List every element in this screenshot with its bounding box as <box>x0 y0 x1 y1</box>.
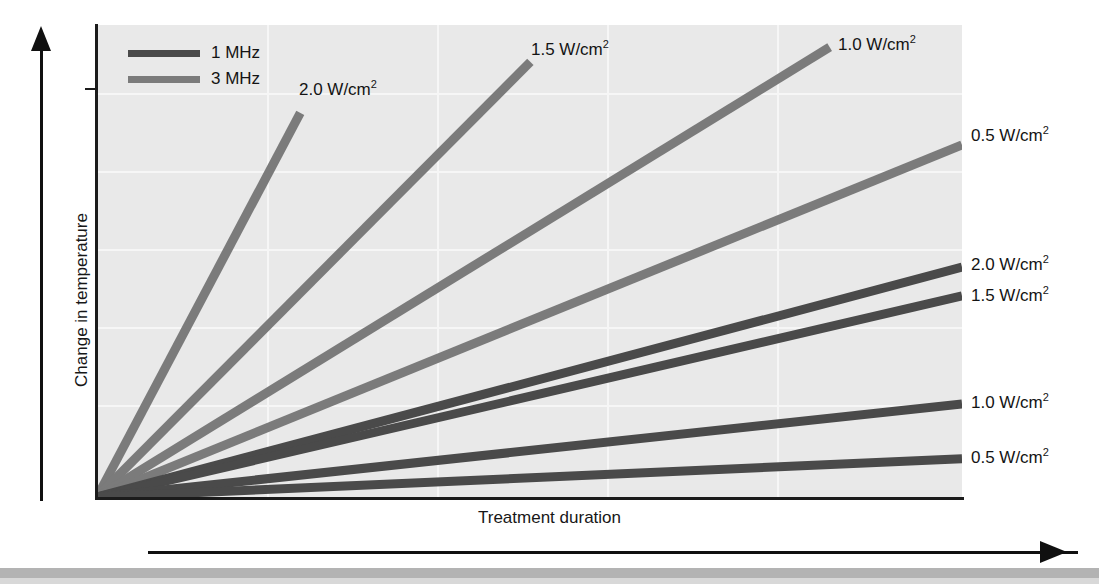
legend: 1 MHz 3 MHz <box>128 40 260 92</box>
legend-item-1mhz: 1 MHz <box>128 40 260 66</box>
legend-label: 1 MHz <box>211 43 260 63</box>
x-axis-line <box>95 497 964 500</box>
x-direction-arrow-icon <box>1040 541 1067 563</box>
line-3mhz-0_5 <box>97 145 962 497</box>
curve-label-3mhz-2_0: 2.0 W/cm2 <box>299 78 377 100</box>
y-axis-line <box>95 24 98 500</box>
legend-item-3mhz: 3 MHz <box>128 66 260 92</box>
curve-label-3mhz-1_5: 1.5 W/cm2 <box>531 38 609 60</box>
curve-label-1mhz-1_5: 1.5 W/cm2 <box>971 284 1049 306</box>
x-direction-arrow-shaft <box>148 551 1078 554</box>
legend-label: 3 MHz <box>211 69 260 89</box>
y-axis-tick <box>85 88 97 90</box>
y-direction-arrow-icon <box>31 26 51 51</box>
curve-label-1mhz-1_0: 1.0 W/cm2 <box>971 391 1049 413</box>
y-axis-title: Change in temperature <box>72 180 92 420</box>
line-3mhz-1_5 <box>97 62 530 497</box>
curve-label-1mhz-2_0: 2.0 W/cm2 <box>971 253 1049 275</box>
legend-swatch-icon <box>128 76 200 83</box>
curve-label-3mhz-0_5: 0.5 W/cm2 <box>971 124 1049 146</box>
plot-area <box>97 25 962 497</box>
curve-label-3mhz-1_0: 1.0 W/cm2 <box>838 33 916 55</box>
data-lines <box>97 25 962 497</box>
figure-container: Change in temperature Treatment duration… <box>0 0 1099 584</box>
y-direction-arrow-shaft <box>40 46 43 501</box>
legend-swatch-icon <box>128 50 200 57</box>
footer-rule-dark <box>0 568 1099 578</box>
curve-label-1mhz-0_5: 0.5 W/cm2 <box>971 446 1049 468</box>
x-axis-title: Treatment duration <box>0 508 1099 528</box>
footer-rule-light <box>0 578 1099 584</box>
